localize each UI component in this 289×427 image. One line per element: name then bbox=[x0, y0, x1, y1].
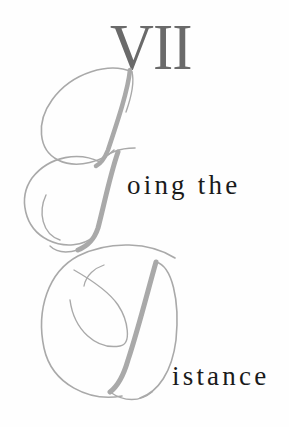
script-letter-g bbox=[25, 68, 135, 252]
script-letter-d bbox=[42, 245, 177, 400]
chapter-title-page: VII bbox=[0, 0, 289, 427]
title-line-2: istance bbox=[172, 363, 269, 390]
title-line-1: oing the bbox=[127, 172, 240, 199]
